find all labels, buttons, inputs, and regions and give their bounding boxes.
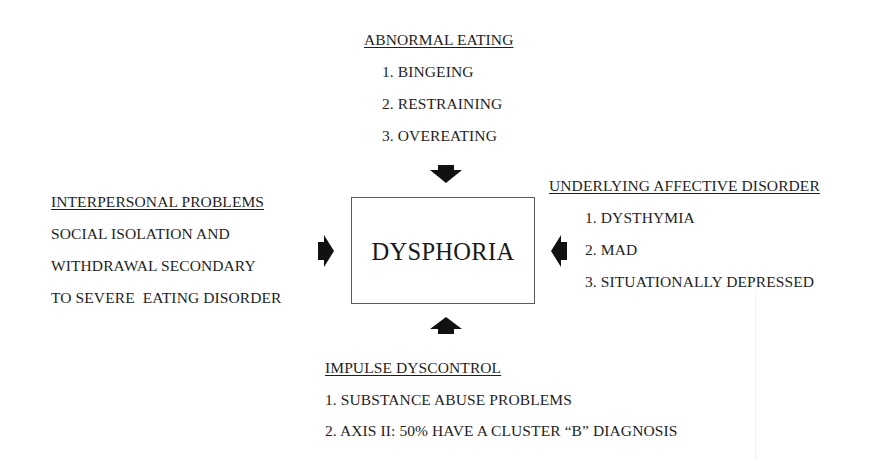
arrow-up-icon (428, 316, 464, 335)
interpersonal-line-1: SOCIAL ISOLATION AND (51, 225, 230, 243)
interpersonal-line-2: WITHDRAWAL SECONDARY (51, 257, 256, 275)
arrow-down-icon (428, 164, 464, 184)
impulse-dyscontrol-item-2: 2. AXIS II: 50% HAVE A CLUSTER “B” DIAGN… (325, 422, 677, 440)
dysphoria-label: DYSPHORIA (372, 238, 515, 266)
dysphoria-box: DYSPHORIA (351, 197, 535, 304)
impulse-dyscontrol-item-1: 1. SUBSTANCE ABUSE PROBLEMS (325, 391, 572, 409)
scan-artifact-line (755, 290, 756, 460)
abnormal-eating-heading: ABNORMAL EATING (364, 31, 513, 49)
arrow-left-icon (550, 234, 568, 268)
abnormal-eating-item-2: 2. RESTRAINING (382, 95, 502, 113)
affective-disorder-item-2: 2. MAD (585, 241, 637, 259)
affective-disorder-item-3: 3. SITUATIONALLY DEPRESSED (585, 273, 814, 291)
interpersonal-line-3: TO SEVERE EATING DISORDER (51, 289, 282, 307)
abnormal-eating-item-1: 1. BINGEING (382, 63, 474, 81)
affective-disorder-heading: UNDERLYING AFFECTIVE DISORDER (549, 177, 820, 195)
affective-disorder-item-1: 1. DYSTHYMIA (585, 209, 695, 227)
arrow-right-icon (317, 234, 335, 268)
abnormal-eating-item-3: 3. OVEREATING (382, 127, 497, 145)
impulse-dyscontrol-heading: IMPULSE DYSCONTROL (325, 359, 501, 377)
interpersonal-problems-heading: INTERPERSONAL PROBLEMS (51, 193, 264, 211)
